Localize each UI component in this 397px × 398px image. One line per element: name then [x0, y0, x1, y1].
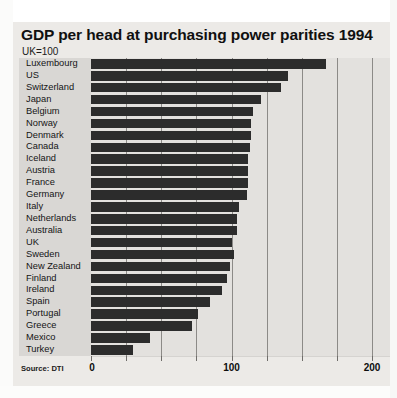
category-label-uk: UK — [26, 237, 39, 249]
page-edge-top — [0, 0, 397, 22]
bar-row: Germany — [19, 189, 390, 201]
bar-row: Netherlands — [19, 213, 390, 225]
bar-portugal — [91, 309, 198, 319]
bar-row: New Zealand — [19, 261, 390, 273]
bar-switzerland — [91, 83, 281, 93]
bar-row: Luxembourg — [19, 58, 390, 70]
bar-row: France — [19, 177, 390, 189]
bar-row: Iceland — [19, 153, 390, 165]
bar-row: Italy — [19, 201, 390, 213]
category-label-japan: Japan — [26, 94, 51, 106]
bar-uk — [91, 238, 232, 248]
bar-japan — [91, 95, 261, 105]
bar-row: Austria — [19, 165, 390, 177]
bar-ireland — [91, 286, 222, 296]
bar-netherlands — [91, 214, 237, 224]
bar-iceland — [91, 154, 248, 164]
x-tick-label-0: 0 — [89, 362, 95, 373]
bar-row: Norway — [19, 118, 390, 130]
category-label-denmark: Denmark — [26, 130, 64, 142]
bar-row: Mexico — [19, 332, 390, 344]
category-label-switzerland: Switzerland — [26, 82, 74, 94]
bar-italy — [91, 202, 239, 212]
x-axis-baseline — [91, 356, 390, 357]
bar-row: US — [19, 70, 390, 82]
bar-row: Australia — [19, 225, 390, 237]
x-tick-0 — [91, 356, 92, 361]
bar-luxembourg — [91, 59, 326, 69]
bar-sweden — [91, 250, 234, 260]
bar-greece — [91, 321, 192, 331]
page-edge-left — [0, 0, 13, 398]
x-tick-label-200: 200 — [364, 362, 381, 373]
bar-row: Turkey — [19, 344, 390, 356]
x-tick-150 — [302, 356, 303, 361]
bar-finland — [91, 274, 227, 284]
bar-row: Ireland — [19, 284, 390, 296]
bar-row: Finland — [19, 273, 390, 285]
bar-row: Portugal — [19, 308, 390, 320]
x-tick-125 — [267, 356, 268, 361]
chart-subtitle: UK=100 — [22, 46, 58, 57]
category-label-finland: Finland — [26, 273, 57, 285]
category-label-mexico: Mexico — [26, 332, 55, 344]
plot-area: LuxembourgUSSwitzerlandJapanBelgiumNorwa… — [19, 58, 390, 356]
bar-belgium — [91, 107, 253, 117]
page-edge-bottom — [0, 386, 397, 398]
category-label-germany: Germany — [26, 189, 64, 201]
category-label-new-zealand: New Zealand — [26, 261, 81, 273]
bar-row: Denmark — [19, 130, 390, 142]
bar-austria — [91, 166, 248, 176]
chart-title: GDP per head at purchasing power paritie… — [21, 26, 373, 44]
category-label-turkey: Turkey — [26, 344, 54, 356]
bar-turkey — [91, 345, 133, 355]
bar-us — [91, 71, 288, 81]
bar-france — [91, 178, 248, 188]
bar-row: Canada — [19, 141, 390, 153]
x-tick-label-100: 100 — [223, 362, 240, 373]
bar-spain — [91, 297, 210, 307]
category-label-austria: Austria — [26, 165, 55, 177]
x-tick-25 — [126, 356, 127, 361]
category-label-portugal: Portugal — [26, 308, 61, 320]
category-label-spain: Spain — [26, 296, 50, 308]
category-label-australia: Australia — [26, 225, 62, 237]
category-label-italy: Italy — [26, 201, 43, 213]
category-label-canada: Canada — [26, 141, 59, 153]
bar-row: UK — [19, 237, 390, 249]
bar-row: Greece — [19, 320, 390, 332]
bar-mexico — [91, 333, 150, 343]
x-tick-100 — [232, 356, 233, 361]
chart-figure: GDP per head at purchasing power paritie… — [0, 0, 397, 398]
category-label-france: France — [26, 177, 55, 189]
bar-row: Switzerland — [19, 82, 390, 94]
source-note: Source: DTI — [21, 364, 64, 373]
x-tick-175 — [337, 356, 338, 361]
category-label-norway: Norway — [26, 118, 58, 130]
x-tick-200 — [372, 356, 373, 361]
category-label-netherlands: Netherlands — [26, 213, 76, 225]
x-tick-50 — [161, 356, 162, 361]
page-edge-right — [390, 0, 397, 398]
bar-germany — [91, 190, 247, 200]
bar-australia — [91, 226, 237, 236]
x-tick-75 — [196, 356, 197, 361]
bar-new-zealand — [91, 262, 230, 272]
category-label-iceland: Iceland — [26, 153, 56, 165]
category-label-belgium: Belgium — [26, 106, 60, 118]
bar-denmark — [91, 131, 251, 141]
category-label-sweden: Sweden — [26, 249, 60, 261]
bar-row: Japan — [19, 94, 390, 106]
bar-row: Sweden — [19, 249, 390, 261]
bar-norway — [91, 119, 251, 129]
bar-row: Belgium — [19, 106, 390, 118]
bar-row: Spain — [19, 296, 390, 308]
category-label-luxembourg: Luxembourg — [26, 58, 78, 70]
category-label-ireland: Ireland — [26, 284, 54, 296]
category-label-greece: Greece — [26, 320, 57, 332]
category-label-us: US — [26, 70, 39, 82]
bar-canada — [91, 143, 250, 153]
